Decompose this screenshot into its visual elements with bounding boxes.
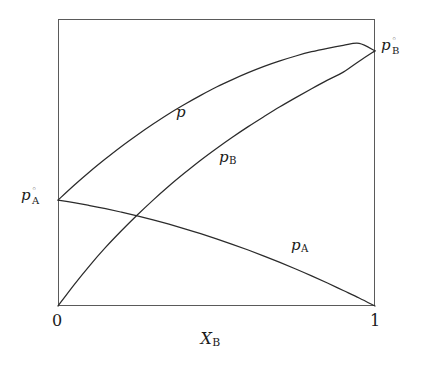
label-p-a-subscript: A (301, 243, 309, 254)
label-p0-a-symbol: p (21, 186, 31, 204)
label-p-b-symbol: p (219, 148, 229, 166)
x-axis-label: XB (0, 331, 421, 349)
curve-p-a-partial (58, 200, 375, 306)
label-p-total: p (176, 105, 186, 120)
label-p-b-subscript: B (229, 155, 237, 166)
label-p0-a-subscript: A (32, 196, 39, 206)
x-axis-label-symbol: X (200, 329, 211, 348)
label-p0-b-symbol: p (381, 36, 391, 54)
label-p0-b: p◦B (381, 38, 391, 53)
x-axis-label-subscript: B (212, 336, 220, 349)
label-p0-b-superscript: ◦ (392, 35, 397, 44)
label-p-a: pA (291, 238, 309, 254)
label-p0-a-superscript: ◦ (32, 185, 37, 194)
vapor-pressure-diagram: p◦B p◦A p pB pA 0 1 XB (0, 0, 421, 374)
x-tick-left: 0 (52, 313, 62, 329)
curves-canvas (58, 19, 375, 306)
curve-p-total (58, 43, 375, 200)
label-p-a-symbol: p (291, 236, 301, 254)
label-p-total-symbol: p (176, 103, 186, 121)
label-p0-a: p◦A (21, 188, 31, 203)
curve-p-b-partial (58, 51, 375, 306)
label-p-b: pB (219, 150, 237, 166)
label-p0-b-subscript: B (392, 46, 400, 56)
x-tick-right: 1 (370, 313, 380, 329)
